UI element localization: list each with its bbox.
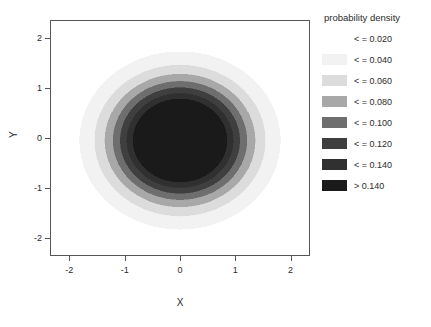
x-tick-mark <box>235 256 236 261</box>
legend-label: < = 0.100 <box>354 118 392 128</box>
legend-swatch <box>322 96 347 107</box>
x-tick-label: 1 <box>233 265 238 275</box>
y-tick-label: -2 <box>20 233 42 243</box>
x-tick-label: 0 <box>177 265 182 275</box>
x-tick-mark <box>291 256 292 261</box>
legend-label: < = 0.040 <box>354 55 392 65</box>
y-tick-label: 0 <box>20 133 42 143</box>
y-tick-mark <box>45 38 50 39</box>
legend: probability density < = 0.020< = 0.040< … <box>322 12 430 200</box>
legend-row: < = 0.140 <box>322 158 430 171</box>
legend-swatch <box>322 75 347 86</box>
legend-row: > 0.140 <box>322 179 430 192</box>
legend-label: < = 0.080 <box>354 97 392 107</box>
legend-row: < = 0.040 <box>322 53 430 66</box>
y-tick-mark <box>45 88 50 89</box>
legend-row: < = 0.060 <box>322 74 430 87</box>
y-tick-mark <box>45 238 50 239</box>
legend-swatch <box>322 117 347 128</box>
legend-swatch <box>322 180 347 191</box>
legend-rows: < = 0.020< = 0.040< = 0.060< = 0.080< = … <box>322 32 430 192</box>
y-tick-label: 2 <box>20 33 42 43</box>
legend-swatch <box>322 33 347 44</box>
legend-swatch <box>322 159 347 170</box>
legend-title: probability density <box>324 12 430 23</box>
legend-label: < = 0.020 <box>354 34 392 44</box>
x-axis-title: X <box>177 297 184 308</box>
x-tick-label: 2 <box>288 265 293 275</box>
x-tick-mark <box>125 256 126 261</box>
legend-row: < = 0.080 <box>322 95 430 108</box>
x-tick-label: -2 <box>65 265 73 275</box>
legend-row: < = 0.120 <box>322 137 430 150</box>
y-tick-mark <box>45 138 50 139</box>
legend-label: < = 0.120 <box>354 139 392 149</box>
legend-row: < = 0.020 <box>322 32 430 45</box>
y-axis-title: Y <box>8 131 19 138</box>
legend-swatch <box>322 54 347 65</box>
plot-panel <box>50 20 310 256</box>
y-tick-label: -1 <box>20 183 42 193</box>
legend-label: < = 0.140 <box>354 160 392 170</box>
legend-swatch <box>322 138 347 149</box>
legend-label: < = 0.060 <box>354 76 392 86</box>
y-tick-label: 1 <box>20 83 42 93</box>
legend-row: < = 0.100 <box>322 116 430 129</box>
contour-surface <box>51 21 309 255</box>
x-tick-label: -1 <box>121 265 129 275</box>
y-tick-mark <box>45 188 50 189</box>
contour-plot-figure: X Y probability density < = 0.020< = 0.0… <box>0 0 431 327</box>
x-tick-mark <box>180 256 181 261</box>
legend-label: > 0.140 <box>354 181 384 191</box>
x-tick-mark <box>69 256 70 261</box>
